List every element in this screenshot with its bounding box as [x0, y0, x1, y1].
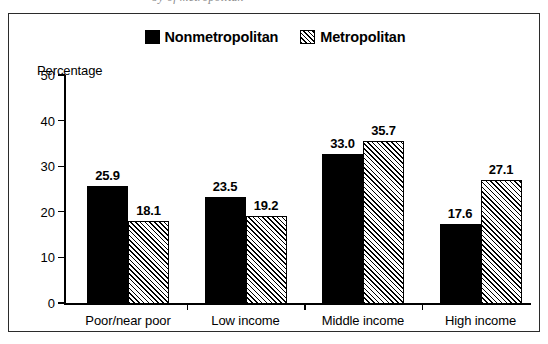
bar-value-label: 18.1: [122, 204, 175, 217]
category-label-3: High income: [421, 314, 541, 327]
bar-nonmetropolitan-3: [440, 224, 481, 304]
bar-metropolitan-2: [363, 141, 404, 304]
category-label-0: Poor/near poor: [68, 314, 188, 327]
clipped-caption-sliver: by of metropolitan: [0, 0, 548, 9]
category-label-2: Middle income: [303, 314, 423, 327]
x-tick-mark: [304, 304, 305, 310]
bar-nonmetropolitan-1: [205, 197, 246, 304]
bar-metropolitan-3: [481, 180, 522, 304]
chart-frame: Nonmetropolitan Metropolitan Percentage …: [8, 13, 540, 332]
bar-value-label: 19.2: [240, 199, 293, 212]
bar-metropolitan-0: [128, 221, 169, 304]
bar-nonmetropolitan-2: [322, 154, 363, 304]
bars-group: [9, 14, 541, 304]
category-label-1: Low income: [186, 314, 306, 327]
x-tick-mark: [422, 304, 423, 310]
x-tick-mark: [187, 304, 188, 310]
bar-value-label: 27.1: [475, 163, 528, 176]
bar-value-label: 23.5: [199, 180, 252, 193]
clipped-caption-text: by of metropolitan: [152, 0, 244, 5]
bar-value-label: 25.9: [81, 169, 134, 182]
bar-value-label: 35.7: [357, 124, 410, 137]
bar-value-label: 17.6: [434, 207, 487, 220]
bar-value-label: 33.0: [316, 137, 369, 150]
bar-metropolitan-1: [246, 216, 287, 304]
plot-area: 01020304050 Poor/near poorLow incomeMidd…: [9, 14, 541, 333]
